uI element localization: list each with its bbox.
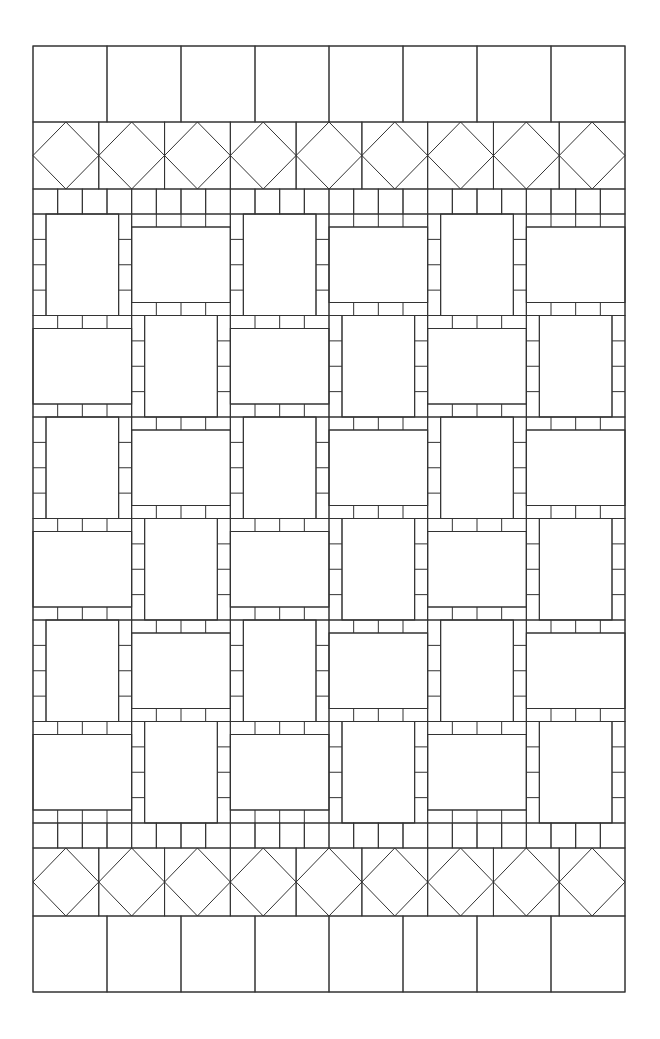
block-center: [539, 519, 612, 621]
block-center: [243, 214, 316, 316]
block-center: [46, 417, 119, 519]
strip-patch: [230, 189, 255, 214]
center-blocks: [33, 214, 625, 823]
block-outline: [428, 214, 527, 316]
block-center: [539, 722, 612, 824]
block-horizontal-sashing: [428, 316, 527, 418]
strip-patch: [526, 823, 551, 848]
block-outline: [526, 722, 625, 824]
square-patch: [33, 46, 107, 122]
block-center: [428, 532, 527, 608]
block-center: [132, 430, 231, 506]
block-vertical-sashing: [132, 519, 231, 621]
bottom-strip-border: [33, 823, 625, 848]
strip-patch: [477, 189, 502, 214]
strip-patch: [428, 823, 453, 848]
diamond-patch: [33, 122, 99, 189]
strip-patch: [33, 823, 58, 848]
strip-patch: [304, 823, 329, 848]
block-outline: [526, 417, 625, 519]
block-vertical-sashing: [230, 417, 329, 519]
strip-patch: [576, 189, 601, 214]
block-horizontal-sashing: [230, 316, 329, 418]
strip-patch: [156, 823, 181, 848]
block-center: [33, 329, 132, 405]
block-vertical-sashing: [329, 519, 428, 621]
diamond-cell: [428, 122, 494, 189]
diamond-cell: [559, 122, 625, 189]
block-vertical-sashing: [428, 214, 527, 316]
strip-patch: [255, 189, 280, 214]
block-outline: [329, 620, 428, 722]
strip-patch: [280, 823, 305, 848]
block-center: [526, 227, 625, 303]
block-vertical-sashing: [230, 620, 329, 722]
block-vertical-sashing: [428, 620, 527, 722]
strip-patch: [329, 823, 354, 848]
block-horizontal-sashing: [132, 214, 231, 316]
block-center: [329, 633, 428, 709]
block-center: [33, 532, 132, 608]
strip-patch: [280, 189, 305, 214]
diamond-patch: [559, 122, 625, 189]
block-outline: [33, 519, 132, 621]
strip-patch: [428, 189, 453, 214]
block-center: [243, 620, 316, 722]
block-vertical-sashing: [428, 417, 527, 519]
strip-patch: [156, 189, 181, 214]
block-center: [428, 329, 527, 405]
block-center: [342, 519, 415, 621]
strip-patch: [452, 189, 477, 214]
block-outline: [329, 214, 428, 316]
block-center: [145, 722, 218, 824]
block-center: [428, 735, 527, 811]
strip-patch: [403, 823, 428, 848]
strip-patch: [329, 189, 354, 214]
block-horizontal-sashing: [230, 519, 329, 621]
strip-patch: [107, 189, 132, 214]
block-center: [145, 316, 218, 418]
block-center: [329, 430, 428, 506]
block-vertical-sashing: [526, 519, 625, 621]
block-center: [441, 214, 514, 316]
top-diamond-border: [33, 122, 625, 189]
block-outline: [33, 316, 132, 418]
square-patch: [33, 916, 107, 992]
block-center: [342, 722, 415, 824]
block-center: [243, 417, 316, 519]
block-center: [132, 227, 231, 303]
block-outline: [132, 316, 231, 418]
strip-patch: [107, 823, 132, 848]
block-outline: [132, 214, 231, 316]
strip-patch: [502, 189, 527, 214]
diamond-patch: [559, 848, 625, 916]
square-patch: [551, 46, 625, 122]
square-patch: [107, 916, 181, 992]
diamond-cell: [296, 122, 362, 189]
block-vertical-sashing: [132, 722, 231, 824]
block-outline: [329, 519, 428, 621]
diamond-patch: [362, 848, 428, 916]
diamond-cell: [362, 848, 428, 916]
block-horizontal-sashing: [329, 620, 428, 722]
diamond-cell: [296, 848, 362, 916]
strip-patch: [82, 189, 107, 214]
block-center: [145, 519, 218, 621]
diamond-cell: [559, 848, 625, 916]
block-horizontal-sashing: [33, 316, 132, 418]
block-outline: [230, 620, 329, 722]
block-outline: [526, 620, 625, 722]
block-horizontal-sashing: [132, 620, 231, 722]
strip-patch: [230, 823, 255, 848]
strip-patch: [132, 189, 157, 214]
strip-patch: [132, 823, 157, 848]
strip-patch: [58, 823, 83, 848]
block-vertical-sashing: [33, 417, 132, 519]
diamond-patch: [99, 848, 165, 916]
block-horizontal-sashing: [526, 214, 625, 316]
strip-patch: [378, 823, 403, 848]
square-patch: [181, 46, 255, 122]
diamond-cell: [230, 122, 296, 189]
block-horizontal-sashing: [526, 417, 625, 519]
block-horizontal-sashing: [230, 722, 329, 824]
